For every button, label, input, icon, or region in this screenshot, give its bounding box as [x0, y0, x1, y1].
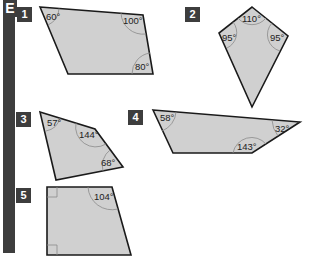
angle-label-1a: 60°: [46, 11, 61, 22]
angle-label-4b: 32°: [275, 123, 290, 134]
shape-3-quadrilateral: 57° 144° 68°: [40, 112, 123, 180]
angle-label-3a: 57°: [47, 117, 62, 128]
angle-label-1c: 80°: [135, 61, 150, 72]
shape-4-quadrilateral: 58° 32° 143°: [153, 110, 300, 153]
angle-label-2c: 95°: [270, 32, 285, 43]
angle-label-4c: 143°: [237, 141, 257, 152]
shape-2-kite: 110° 95° 95°: [219, 7, 288, 107]
angle-label-1b: 100°: [123, 15, 143, 26]
angle-label-5a: 104°: [94, 191, 114, 202]
angle-label-2a: 110°: [242, 13, 261, 24]
angle-label-2b: 95°: [222, 32, 237, 43]
angle-label-4a: 58°: [160, 112, 175, 123]
shape-1-quadrilateral: 60° 100° 80°: [40, 7, 153, 74]
shape-5-quadrilateral: 104°: [47, 187, 131, 255]
quadrilaterals-diagram: 60° 100° 80° 110° 95° 95° 57° 144° 68° 5…: [0, 0, 311, 260]
angle-label-3c: 68°: [101, 157, 116, 168]
angle-label-3b: 144°: [79, 129, 99, 140]
